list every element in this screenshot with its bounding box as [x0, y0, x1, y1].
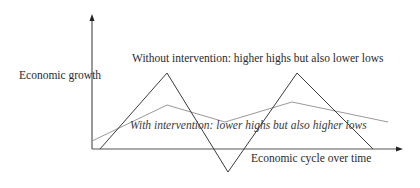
x-axis-label: Economic cycle over time	[251, 153, 371, 165]
figure: Economic growth Without intervention: hi…	[0, 0, 420, 188]
annotation-with-intervention: With intervention: lower highs but also …	[130, 120, 367, 132]
y-axis-label: Economic growth	[19, 70, 101, 82]
y-axis-arrow-icon	[90, 14, 95, 21]
annotation-without-intervention: Without intervention: higher highs but a…	[132, 53, 384, 65]
x-axis-arrow-icon	[396, 147, 403, 152]
